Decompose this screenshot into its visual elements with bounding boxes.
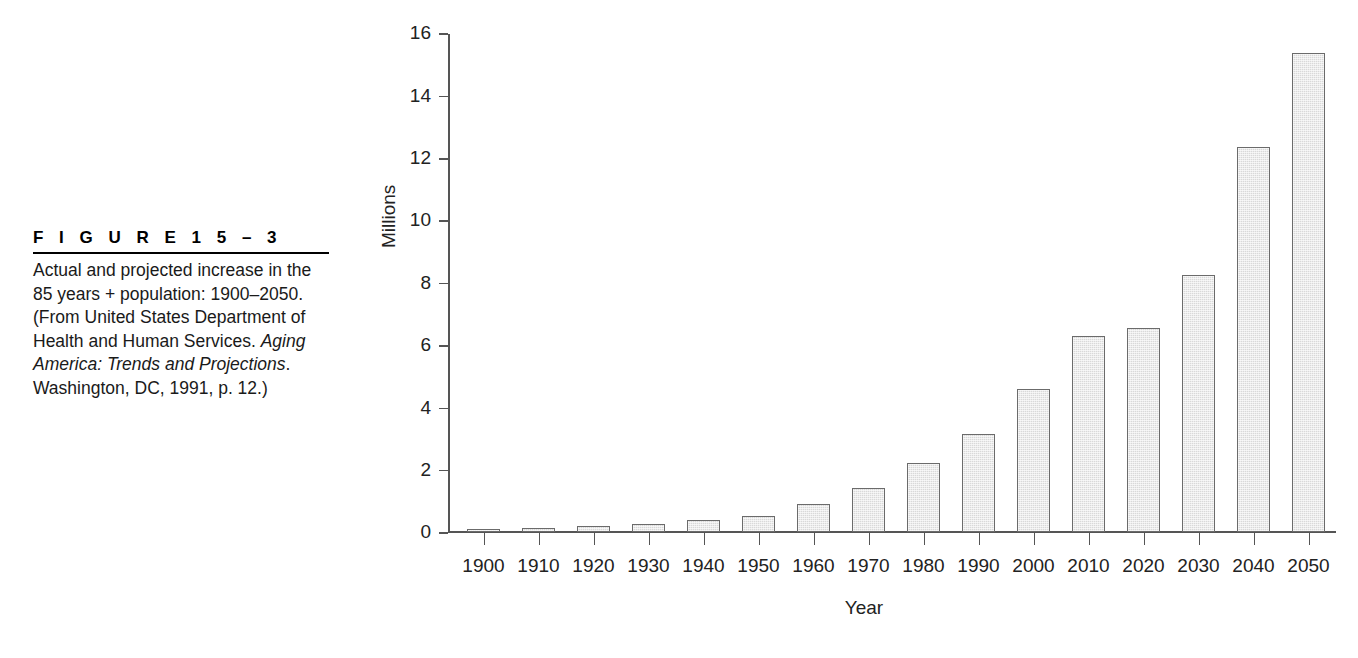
- y-axis-tick-label: 12: [410, 147, 431, 169]
- x-axis-tick: [484, 533, 486, 545]
- bar: [852, 488, 885, 532]
- y-axis-tick: 14: [439, 96, 448, 98]
- bar: [1292, 53, 1325, 532]
- y-axis-tick-label: 8: [420, 272, 431, 294]
- bar: [1127, 328, 1160, 532]
- x-axis-tick-label: 1930: [627, 555, 669, 577]
- bar: [962, 434, 995, 532]
- y-axis-title: Millions: [378, 185, 400, 248]
- bar: [522, 528, 555, 532]
- x-axis-tick: [869, 533, 871, 545]
- x-axis-tick: [649, 533, 651, 545]
- x-axis-tick: [539, 533, 541, 545]
- x-axis-tick: [594, 533, 596, 545]
- y-axis-tick: 16: [439, 33, 448, 35]
- y-axis-tick: 6: [439, 345, 448, 347]
- x-axis-tick: [1254, 533, 1256, 545]
- bar: [1182, 275, 1215, 532]
- x-axis-tick-label: 2020: [1122, 555, 1164, 577]
- figure-caption-block: F I G U R E 1 5 – 3 Actual and projected…: [33, 228, 333, 400]
- x-axis-tick: [1034, 533, 1036, 545]
- x-axis-tick-label: 2030: [1177, 555, 1219, 577]
- x-axis-tick-label: 2010: [1067, 555, 1109, 577]
- bar: [632, 524, 665, 532]
- x-axis-tick-label: 2000: [1012, 555, 1054, 577]
- bar-chart: Millions 0246810121416 19001910192019301…: [370, 0, 1358, 658]
- y-axis-tick-label: 10: [410, 209, 431, 231]
- bar: [907, 463, 940, 532]
- y-axis-tick: 8: [439, 283, 448, 285]
- y-axis-tick: 2: [439, 470, 448, 472]
- y-axis-tick: 12: [439, 158, 448, 160]
- x-axis-tick-label: 1960: [792, 555, 834, 577]
- x-axis-tick-label: 1910: [517, 555, 559, 577]
- y-axis-line: [448, 34, 450, 533]
- x-axis-tick-label: 2050: [1287, 555, 1329, 577]
- y-axis-tick: 10: [439, 220, 448, 222]
- x-axis-title: Year: [370, 597, 1358, 619]
- x-axis-tick-label: 1920: [572, 555, 614, 577]
- x-axis-tick-label: 1990: [957, 555, 999, 577]
- x-axis-tick-label: 2040: [1232, 555, 1274, 577]
- y-axis-tick-label: 4: [420, 397, 431, 419]
- bar: [1237, 147, 1270, 532]
- x-axis-tick: [924, 533, 926, 545]
- plot-area: 0246810121416 19001910192019301940195019…: [448, 34, 1328, 533]
- x-axis-tick: [759, 533, 761, 545]
- figure-caption-text: Actual and projected increase in the 85 …: [33, 259, 333, 400]
- y-axis-tick: 0: [439, 532, 448, 534]
- x-axis-tick: [1309, 533, 1311, 545]
- x-axis-tick-label: 1980: [902, 555, 944, 577]
- x-axis-tick-label: 1900: [462, 555, 504, 577]
- x-axis-tick-label: 1970: [847, 555, 889, 577]
- x-axis-tick: [1144, 533, 1146, 545]
- x-axis-tick: [979, 533, 981, 545]
- x-axis-tick: [1199, 533, 1201, 545]
- bar: [1017, 389, 1050, 532]
- y-axis-tick-label: 6: [420, 334, 431, 356]
- y-axis-tick: 4: [439, 408, 448, 410]
- y-axis-tick-label: 2: [420, 459, 431, 481]
- x-axis-tick-label: 1950: [737, 555, 779, 577]
- x-axis-tick: [814, 533, 816, 545]
- bar: [577, 526, 610, 532]
- bar: [687, 520, 720, 532]
- x-axis-tick: [704, 533, 706, 545]
- bar: [467, 529, 500, 532]
- y-axis-tick-label: 0: [420, 521, 431, 543]
- x-axis-tick-label: 1940: [682, 555, 724, 577]
- figure-number-heading: F I G U R E 1 5 – 3: [33, 228, 333, 252]
- figure-heading-divider: [33, 252, 329, 254]
- bar: [742, 516, 775, 532]
- bar: [797, 504, 830, 532]
- bar: [1072, 336, 1105, 532]
- y-axis-tick-label: 16: [410, 22, 431, 44]
- x-axis-tick: [1089, 533, 1091, 545]
- y-axis-tick-label: 14: [410, 85, 431, 107]
